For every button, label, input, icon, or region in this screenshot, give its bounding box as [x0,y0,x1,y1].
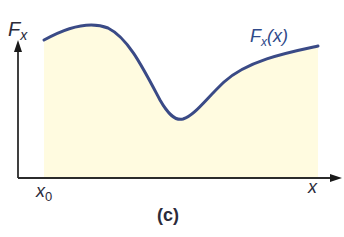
x-origin-label: x0 [36,181,52,204]
curve-label: Fx(x) [250,26,288,49]
x-axis-label: x [308,177,317,198]
figure-caption: (c) [157,205,179,226]
x-axis-arrow-icon [330,174,342,182]
y-axis-label: Fx [8,18,27,43]
